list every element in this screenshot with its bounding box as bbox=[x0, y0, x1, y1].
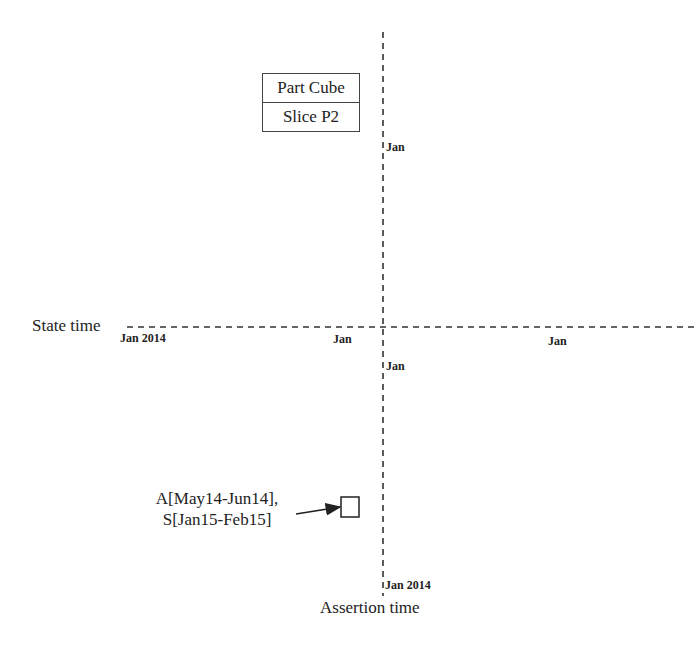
legend-title: Part Cube bbox=[263, 74, 359, 102]
state-time-label: State time bbox=[32, 316, 100, 336]
state-tick-mid: Jan bbox=[333, 332, 352, 347]
pointer-arrow bbox=[296, 507, 340, 514]
data-point-assertion: A[May14-Jun14], bbox=[143, 488, 291, 509]
state-tick-start: Jan 2014 bbox=[120, 331, 166, 346]
state-tick-end: Jan bbox=[548, 334, 567, 349]
data-point-label: A[May14-Jun14], S[Jan15-Feb15] bbox=[143, 488, 291, 530]
assertion-tick-bottom: Jan 2014 bbox=[385, 578, 431, 593]
data-point-box bbox=[341, 497, 359, 517]
legend-subtitle: Slice P2 bbox=[263, 102, 359, 131]
data-point-state: S[Jan15-Feb15] bbox=[143, 509, 291, 530]
assertion-tick-mid: Jan bbox=[386, 359, 405, 374]
assertion-tick-top: Jan bbox=[386, 140, 405, 155]
legend-box: Part Cube Slice P2 bbox=[262, 73, 360, 132]
assertion-time-label: Assertion time bbox=[320, 598, 420, 618]
